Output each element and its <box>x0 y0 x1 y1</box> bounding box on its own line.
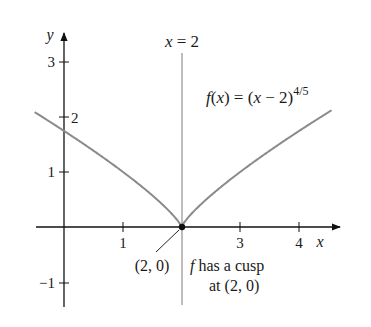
cusp-function-chart: 1 3 4 3 2 1 −1 y x x = 2 f(x) = (x − 2)4… <box>0 0 371 327</box>
cusp-annotation-line2: at (2, 0) <box>209 277 259 295</box>
function-exponent: 4/5 <box>293 84 308 98</box>
x-tick-label-4: 4 <box>295 235 303 251</box>
x-tick-label-3: 3 <box>236 235 244 251</box>
y-tick-label-2: 2 <box>71 110 79 126</box>
cusp-annotation-line1: f has a cusp <box>190 257 264 275</box>
point-leader-line <box>156 230 179 252</box>
x-axis-label: x <box>315 233 323 250</box>
function-curve <box>35 110 332 226</box>
function-label: f(x) = (x − 2)4/5 <box>206 84 309 107</box>
cusp-point <box>179 224 185 230</box>
y-axis-label: y <box>44 26 54 44</box>
y-tick-label-neg1: −1 <box>39 275 55 291</box>
vertical-line-label: x = 2 <box>164 32 199 51</box>
x-tick-label-1: 1 <box>119 235 127 251</box>
y-tick-label-1: 1 <box>48 164 56 180</box>
point-label: (2, 0) <box>135 257 170 275</box>
y-tick-label-3: 3 <box>48 54 56 70</box>
